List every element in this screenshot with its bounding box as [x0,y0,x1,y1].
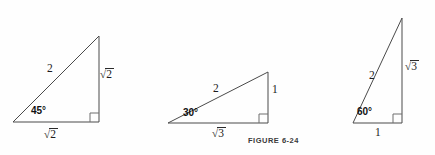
triangle-3-vertical-leg-label: √3 [405,60,419,73]
triangle-1-vertical-leg-label: √2 [100,68,114,81]
sqrt-3-radical-right: √3 [405,60,419,73]
triangle-2-vertical-leg-label: 1 [272,84,278,96]
triangle-3-base-label: 1 [375,127,381,139]
figure-container: 2 √2 45° √2 2 1 30° √3 2 √3 60° 1 FIGURE… [0,0,435,155]
triangle-2-base-label: √3 [212,127,226,140]
triangle-2-hypotenuse-label: 2 [213,83,219,95]
triangle-1-angle-label: 45° [31,106,46,116]
triangle-1-right-angle-icon [90,113,99,122]
triangle-1-base-label: √2 [44,128,58,141]
sqrt-3-radical-base: √3 [212,127,226,140]
triangle-3-hypotenuse-label: 2 [369,70,375,82]
triangle-2-angle-label: 30° [183,108,198,118]
triangle-3-angle-label: 60° [357,107,372,117]
radicand-value: 3 [217,127,226,140]
triangle-1-hypotenuse [13,36,99,122]
sqrt-2-radical-base: √2 [44,128,58,141]
triangle-45-45-90-shape [13,36,99,122]
radicand-value: 2 [49,128,58,141]
triangle-3-right-angle-icon [393,114,402,123]
figure-caption: FIGURE 6-24 [248,136,299,145]
triangle-2-right-angle-icon [259,114,268,123]
radicand-value: 2 [105,68,114,81]
sqrt-2-radical-right: √2 [100,68,114,81]
radicand-value: 3 [410,60,419,73]
triangle-1-hypotenuse-label: 2 [47,63,53,75]
